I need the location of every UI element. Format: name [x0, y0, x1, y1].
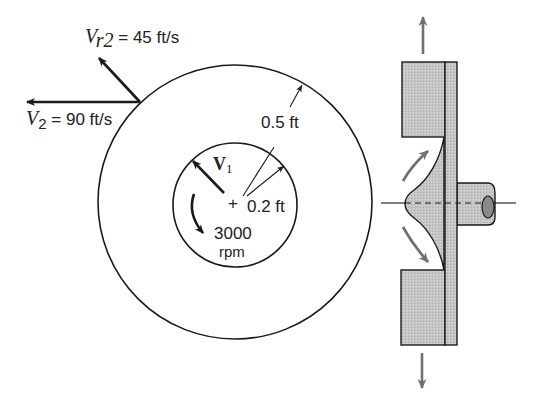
center-mark: + [228, 194, 238, 213]
rotation-speed-unit: rpm [219, 243, 245, 260]
side-section-view [381, 17, 516, 388]
rotation-speed-value: 3000 [214, 224, 252, 243]
upper-shroud-block [402, 62, 445, 137]
diagram-canvas: + 0.5 ft 0.2 ft V1 3000 rpm Vr2 = 45 ft/… [0, 0, 533, 397]
outer-radius-arrow [290, 85, 302, 107]
inflow-arrow-lower [403, 227, 428, 262]
inflow-arrow-upper [403, 151, 428, 181]
rotation-direction-arrow [192, 194, 203, 233]
exit-radial-velocity-arrow [99, 58, 140, 102]
exit-absolute-velocity-label: V2 = 90 ft/s [26, 107, 112, 132]
inner-radius-label: 0.2 ft [247, 197, 285, 216]
shaft-end-face [482, 196, 494, 218]
inlet-velocity-label: V1 [213, 154, 233, 176]
exit-radial-velocity-label: Vr2 = 45 ft/s [85, 25, 179, 51]
plan-view: + 0.5 ft 0.2 ft V1 3000 rpm Vr2 = 45 ft/… [26, 25, 372, 339]
lower-shroud-block [401, 270, 445, 345]
impeller-diagram: + 0.5 ft 0.2 ft V1 3000 rpm Vr2 = 45 ft/… [0, 0, 533, 397]
outer-radius-label: 0.5 ft [261, 113, 299, 132]
outer-radius-leader [243, 147, 274, 196]
